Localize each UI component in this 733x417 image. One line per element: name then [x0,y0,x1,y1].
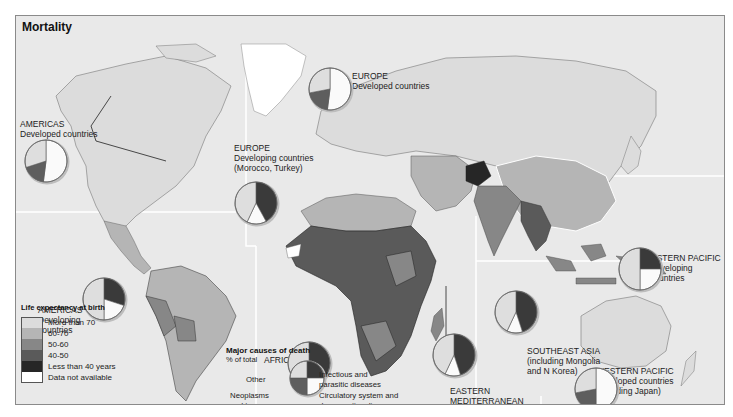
pie-slice-other [619,248,640,290]
pie-americas-developed [25,140,70,185]
legend-item: Data not available [21,372,139,383]
pie-southeast-asia [495,291,540,336]
legend-label: 40-50 [48,351,68,360]
legend-label: Data not available [48,373,112,382]
pie-slice-other [309,68,330,93]
legend-item: More than 70 [21,317,139,328]
pie-eastern-mediterranean [433,334,478,379]
legend-label: Less than 40 years [48,362,116,371]
pie-western-pacific-developing [619,248,664,293]
label-line: Neoplasms [224,391,269,401]
label-line: and tumors [224,401,269,406]
pie-europe-developing [235,182,280,227]
legend-item: 60-70 [21,328,139,339]
pie-europe-developed [309,68,354,113]
legend-title: Life expectancy at birth [21,303,139,312]
causes-circulatory-label: Circulatory system and degenerative dise… [319,391,398,405]
legend-swatch [21,372,43,383]
legend-item: 40-50 [21,350,139,361]
label-line: Circulatory system and [319,391,398,401]
legend-swatch [21,350,43,361]
causes-legend: Major causes of death % of total [226,346,310,364]
map-frame: Mortality AMERICAS Developed countries E… [15,15,725,405]
pie-slice-other [575,368,596,393]
legend-label: More than 70 [48,318,95,327]
legend-swatch [21,361,43,372]
legend-item: 50-60 [21,339,139,350]
label-line: Infectious and [319,370,381,380]
pie-western-pacific-developed [575,368,620,406]
causes-other-label: Other [246,375,266,385]
life-expectancy-legend: Life expectancy at birth More than 7060-… [21,303,139,383]
legend-label: 60-70 [48,329,68,338]
label-line: degenerative diseases [319,401,398,406]
causes-infectious-label: Infectious and parasitic diseases [319,370,381,389]
causes-subtitle: % of total [226,355,310,364]
legend-swatch [21,339,43,350]
legend-swatch [21,328,43,339]
causes-neoplasms-label: Neoplasms and tumors [224,391,269,405]
legend-swatch [21,317,43,328]
causes-title: Major causes of death [226,346,310,355]
legend-label: 50-60 [48,340,68,349]
legend-item: Less than 40 years [21,361,139,372]
label-line: parasitic diseases [319,380,381,390]
